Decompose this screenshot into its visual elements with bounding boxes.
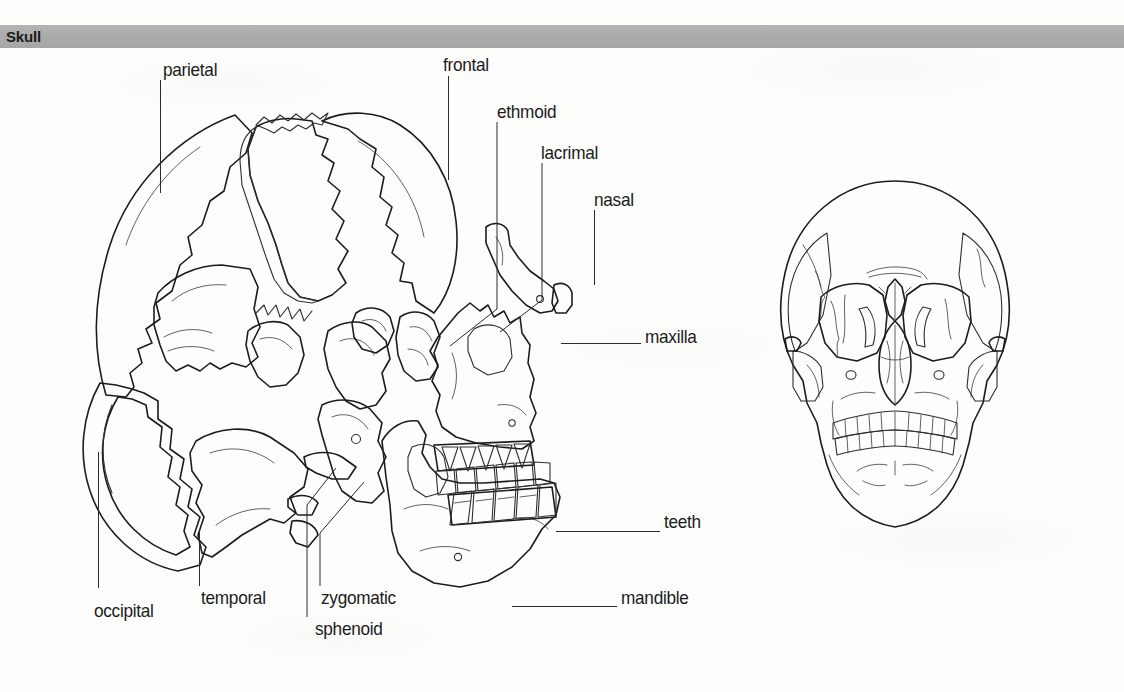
leader-line-teeth bbox=[556, 531, 660, 532]
leader-line-temporal bbox=[199, 530, 200, 586]
label-mandible: mandible bbox=[621, 588, 689, 608]
label-zygomatic: zygomatic bbox=[321, 588, 396, 608]
leader-line-mandible bbox=[512, 606, 617, 607]
anatomy-figure-page: Skull bbox=[0, 0, 1124, 692]
bone-zygomatic-arch bbox=[288, 453, 356, 548]
leader-line-parietal bbox=[160, 80, 161, 193]
bone-frontal bbox=[322, 113, 457, 313]
exploded-lateral-skull-illustration bbox=[60, 105, 680, 645]
lower-teeth-row bbox=[835, 430, 955, 455]
bone-sphenoid bbox=[318, 400, 386, 503]
label-nasal: nasal bbox=[594, 190, 634, 210]
bone-mandible bbox=[382, 421, 560, 587]
section-header-band bbox=[0, 25, 1124, 48]
orbit-left bbox=[819, 284, 887, 362]
bone-temporal bbox=[190, 429, 308, 557]
bone-occipital bbox=[83, 383, 206, 571]
bone-maxilla bbox=[430, 303, 550, 495]
leader-line-maxilla bbox=[561, 343, 641, 344]
label-temporal: temporal bbox=[201, 588, 266, 608]
bone-nasal bbox=[486, 224, 572, 313]
label-sphenoid: sphenoid bbox=[315, 619, 383, 639]
bone-inner-cranial-plate bbox=[154, 265, 312, 371]
bone-zygomatic bbox=[324, 322, 390, 409]
frontal-skull-illustration bbox=[745, 175, 1045, 555]
leader-line-nasal bbox=[594, 210, 595, 285]
label-lacrimal: lacrimal bbox=[541, 143, 598, 163]
leader-line-occipital bbox=[98, 452, 99, 588]
label-parietal: parietal bbox=[163, 60, 217, 80]
leader-line-frontal bbox=[448, 76, 449, 180]
label-occipital: occipital bbox=[94, 601, 154, 621]
page-title: Skull bbox=[6, 26, 41, 47]
cranial-cavity-upper bbox=[240, 118, 348, 303]
orbit-right bbox=[903, 284, 971, 362]
bone-parietal bbox=[96, 115, 252, 397]
nasal-aperture bbox=[879, 321, 911, 405]
bone-sphenoid-body bbox=[246, 322, 304, 387]
label-ethmoid: ethmoid bbox=[497, 102, 556, 122]
suture-strip bbox=[256, 113, 328, 133]
label-maxilla: maxilla bbox=[645, 327, 697, 347]
label-teeth: teeth bbox=[664, 512, 701, 532]
label-frontal: frontal bbox=[443, 55, 489, 75]
